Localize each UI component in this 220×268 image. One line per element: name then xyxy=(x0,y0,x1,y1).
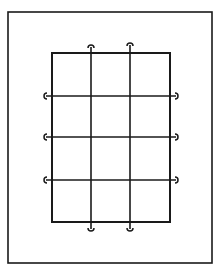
grid-diagram xyxy=(0,0,220,268)
horizontal-lines xyxy=(44,93,178,183)
